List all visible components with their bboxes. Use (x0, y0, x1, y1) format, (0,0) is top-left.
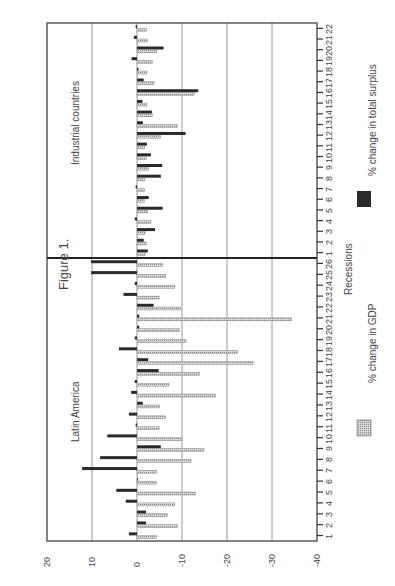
category-tick-label: 10 (324, 434, 334, 444)
panel-label-latin-america: Latin America (70, 381, 81, 442)
category-tick-label: 18 (324, 347, 334, 357)
category-tick-label: 21 (324, 35, 334, 45)
category-axis-ticks (317, 28, 323, 535)
category-tick-label: 17 (324, 78, 334, 88)
category-tick-label: 18 (324, 67, 334, 77)
category-tick-label: 3 (324, 229, 334, 234)
category-tick-label: 22 (324, 24, 334, 34)
category-tick-label: 6 (324, 197, 334, 202)
category-tick-label: 9 (324, 165, 334, 170)
category-tick-label: 6 (324, 479, 334, 484)
chart-title: Figure 1. (56, 239, 71, 290)
category-tick-label: 14 (324, 110, 334, 120)
category-tick-label: 11 (324, 142, 334, 151)
x-axis-label: Recessions (343, 243, 354, 295)
category-tick-label: 1 (324, 251, 334, 256)
value-tick-label: -10 (177, 554, 187, 567)
category-tick-label: 8 (324, 176, 334, 181)
gridlines (92, 23, 272, 541)
category-tick-label: 3 (324, 512, 334, 517)
category-tick-label: 20 (324, 46, 334, 56)
category-tick-label: 13 (324, 120, 334, 130)
category-tick-label: 16 (324, 88, 334, 98)
legend-label-gdp: % change in GDP (367, 304, 378, 384)
category-tick-label: 17 (324, 357, 334, 367)
category-tick-label: 5 (324, 208, 334, 213)
category-tick-label: 22 (324, 303, 334, 313)
chart-canvas (0, 0, 395, 586)
category-tick-label: 24 (324, 281, 334, 291)
category-tick-label: 2 (324, 523, 334, 528)
category-tick-label: 15 (324, 99, 334, 109)
rotated-bar-chart: Figure 1. Latin America Industrial count… (0, 0, 395, 586)
category-tick-label: 4 (324, 219, 334, 224)
category-tick-label: 15 (324, 379, 334, 389)
value-tick-label: -30 (267, 554, 277, 567)
category-tick-label: 16 (324, 368, 334, 378)
bars (82, 25, 292, 538)
category-tick-label: 7 (324, 468, 334, 473)
category-tick-label: 26 (324, 259, 334, 269)
category-tick-label: 9 (324, 446, 334, 451)
category-tick-label: 12 (324, 412, 334, 422)
value-tick-label: 0 (132, 562, 142, 567)
category-tick-label: 19 (324, 336, 334, 346)
category-tick-label: 10 (324, 153, 334, 163)
value-tick-label: -20 (222, 554, 232, 567)
category-tick-label: 11 (324, 423, 334, 432)
category-tick-label: 7 (324, 187, 334, 192)
value-tick-label: -40 (312, 554, 322, 567)
category-tick-label: 12 (324, 131, 334, 141)
category-tick-label: 21 (324, 314, 334, 324)
category-tick-label: 4 (324, 501, 334, 506)
category-tick-label: 13 (324, 401, 334, 411)
category-tick-label: 19 (324, 56, 334, 66)
category-tick-label: 14 (324, 390, 334, 400)
category-tick-label: 20 (324, 325, 334, 335)
value-tick-label: 10 (87, 557, 97, 567)
category-tick-label: 1 (324, 534, 334, 539)
category-tick-label: 23 (324, 292, 334, 302)
panel-label-industrial-countries: Industrial countries (70, 81, 81, 165)
category-tick-label: 8 (324, 457, 334, 462)
legend-label-surplus: % change in total surplus (367, 64, 378, 176)
value-tick-label: 20 (42, 557, 52, 567)
category-tick-label: 5 (324, 490, 334, 495)
category-tick-label: 25 (324, 270, 334, 280)
category-tick-label: 2 (324, 240, 334, 245)
